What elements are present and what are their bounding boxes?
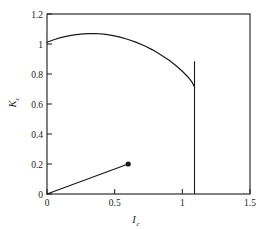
x-tick-label-0: 0 (45, 198, 50, 208)
x-tick-label-1: 0.5 (109, 198, 121, 208)
y-tick-label-6: 1.2 (31, 10, 43, 20)
x-axis-ticks (47, 189, 250, 194)
chart-canvas: 0 0.2 0.4 0.6 0.8 1 1.2 0 0.5 1 1.5 I c … (0, 0, 264, 229)
y-tick-label-5: 1 (38, 40, 43, 50)
x-tick-label-3: 1.5 (244, 198, 256, 208)
x-axis-title-sub: c (136, 220, 140, 228)
x-axis-title: I c (131, 214, 140, 228)
y-tick-label-2: 0.4 (31, 130, 43, 140)
branch-endpoint-marker (126, 161, 131, 166)
series-lower-branch (47, 164, 128, 194)
y-tick-label-1: 0.2 (31, 160, 43, 170)
y-axis-title-sub: c (13, 97, 21, 101)
series-upper-branch (47, 34, 195, 87)
figure-container: 0 0.2 0.4 0.6 0.8 1 1.2 0 0.5 1 1.5 I c … (0, 0, 264, 229)
y-tick-label-3: 0.6 (31, 100, 43, 110)
y-tick-label-0: 0 (38, 190, 43, 200)
x-tick-label-2: 1 (180, 198, 185, 208)
plot-frame (47, 14, 250, 194)
y-tick-label-4: 0.8 (31, 70, 43, 80)
y-axis-title: K c (7, 97, 21, 109)
